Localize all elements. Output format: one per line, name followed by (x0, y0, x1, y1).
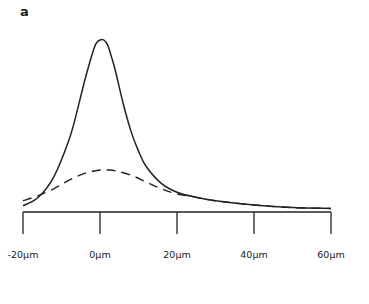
x-tick-label: 60µm (317, 249, 344, 260)
solid-curve (23, 39, 331, 208)
line-chart: -20µm0µm20µm40µm60µm (0, 0, 369, 304)
x-tick-label: -20µm (8, 249, 39, 260)
x-axis: -20µm0µm20µm40µm60µm (8, 212, 345, 260)
x-tick-label: 0µm (89, 249, 110, 260)
x-tick-label: 20µm (163, 249, 190, 260)
x-tick-label: 40µm (240, 249, 267, 260)
dashed-curve (23, 170, 331, 209)
